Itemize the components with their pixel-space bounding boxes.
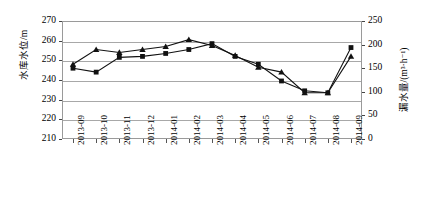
- data-point-square: [349, 45, 354, 50]
- y-axis-left-tick-label: 210: [28, 134, 56, 144]
- x-axis-tick-mark: [258, 139, 259, 143]
- data-point-triangle: [93, 46, 99, 52]
- x-axis-tick-mark: [166, 139, 167, 143]
- chart-figure: 水库水位/m 漏水量/(m³·h⁻¹) 21022023024025026027…: [0, 0, 424, 204]
- data-point-square: [140, 54, 145, 59]
- series-line-1: [73, 44, 351, 93]
- data-point-triangle: [348, 53, 354, 59]
- data-point-square: [117, 55, 122, 60]
- y-axis-right-tick-label: 0: [368, 134, 396, 144]
- x-axis-tick-mark: [189, 139, 190, 143]
- data-series-layer: [62, 21, 362, 139]
- y-axis-left-tick-label: 270: [28, 16, 56, 26]
- y-axis-right-tick-mark: [362, 45, 365, 46]
- y-axis-left-tick-label: 240: [28, 75, 56, 85]
- data-point-square: [279, 79, 284, 84]
- data-point-square: [163, 51, 168, 56]
- y-axis-right-tick-label: 150: [368, 63, 396, 73]
- y-axis-right-tick-mark: [362, 92, 365, 93]
- y-axis-left-tick-label: 250: [28, 55, 56, 65]
- x-axis-tick-mark: [328, 139, 329, 143]
- y-axis-left-tick-mark: [59, 139, 62, 140]
- x-axis-tick-mark: [143, 139, 144, 143]
- y-axis-right-tick-label: 200: [368, 40, 396, 50]
- x-axis-tick-mark: [73, 139, 74, 143]
- y-axis-left-tick-label: 260: [28, 36, 56, 46]
- y-axis-right-tick-label: 250: [368, 16, 396, 26]
- data-point-square: [94, 70, 99, 75]
- y-axis-left-tick-label: 220: [28, 114, 56, 124]
- x-axis-tick-mark: [282, 139, 283, 143]
- y-axis-right-title: 漏水量/(m³·h⁻¹): [399, 48, 409, 113]
- y-axis-right-tick-label: 100: [368, 87, 396, 97]
- data-point-triangle: [186, 37, 192, 43]
- data-point-square: [186, 47, 191, 52]
- y-axis-right-tick-mark: [362, 21, 365, 22]
- x-axis-tick-mark: [235, 139, 236, 143]
- y-axis-left-tick-label: 230: [28, 95, 56, 105]
- x-axis-tick-mark: [351, 139, 352, 143]
- x-axis-tick-mark: [212, 139, 213, 143]
- y-axis-right-tick-label: 50: [368, 110, 396, 120]
- x-axis-tick-mark: [96, 139, 97, 143]
- y-axis-right-tick-mark: [362, 68, 365, 69]
- data-point-triangle: [70, 61, 76, 67]
- x-axis-tick-mark: [119, 139, 120, 143]
- x-axis-tick-mark: [305, 139, 306, 143]
